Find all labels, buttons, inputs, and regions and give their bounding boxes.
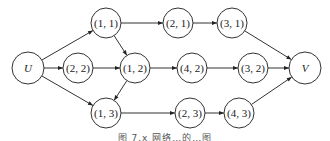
node-label: (1, 3) [94, 107, 118, 120]
node-label: (2, 3) [178, 107, 202, 120]
node-n12: (1, 2) [120, 53, 150, 83]
node-n22: (2, 2) [63, 53, 93, 83]
node-n43: (4, 3) [224, 98, 254, 128]
edge-n11-to-n12 [114, 36, 127, 56]
node-n11: (1, 1) [91, 8, 121, 38]
node-n13: (1, 3) [91, 98, 121, 128]
node-U: U [12, 52, 44, 84]
node-n31: (3, 1) [217, 8, 247, 38]
node-n42: (4, 2) [177, 53, 207, 83]
node-n21: (2, 1) [163, 8, 193, 38]
node-label: (3, 2) [241, 62, 265, 75]
node-label: (4, 3) [227, 107, 251, 120]
node-label: U [24, 62, 33, 74]
node-label: (1, 2) [123, 62, 147, 75]
node-label: (2, 1) [166, 17, 190, 30]
node-label: (2, 2) [66, 62, 90, 75]
node-label: (1, 1) [94, 17, 118, 30]
figure-caption: 图 7.x 网络…的…图 [0, 131, 330, 141]
node-n32: (3, 2) [238, 53, 268, 83]
edge-n12-to-n13 [114, 81, 127, 101]
network-diagram: U(1, 1)(2, 1)(3, 1)(2, 2)(1, 2)(4, 2)(3,… [0, 0, 330, 141]
node-label: (4, 2) [180, 62, 204, 75]
node-V: V [289, 52, 321, 84]
node-n23: (2, 3) [175, 98, 205, 128]
node-label: (3, 1) [220, 17, 244, 30]
